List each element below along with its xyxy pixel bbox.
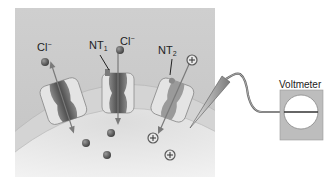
label-chloride-center: Cl− [120,35,134,47]
nt1-binding-site [105,69,110,76]
electrode-wire [226,74,282,112]
chloride-ion [107,129,115,137]
chloride-ion [41,58,49,66]
label-nt2: NT2 [158,45,177,57]
chloride-ion [103,151,111,159]
chloride-ion [82,139,90,147]
cation-ion [187,55,197,65]
chloride-ion [116,46,124,54]
label-chloride-left: Cl− [37,41,51,53]
cation-ion [165,150,175,160]
voltmeter-label: Voltmeter [279,79,321,90]
voltmeter [280,90,323,140]
cation-ion [148,133,158,143]
synaptic-diagram: Cl− NT1 Cl− NT2 Voltmeter [0,0,335,187]
diagram-canvas [0,0,335,187]
label-nt1: NT1 [89,40,108,52]
